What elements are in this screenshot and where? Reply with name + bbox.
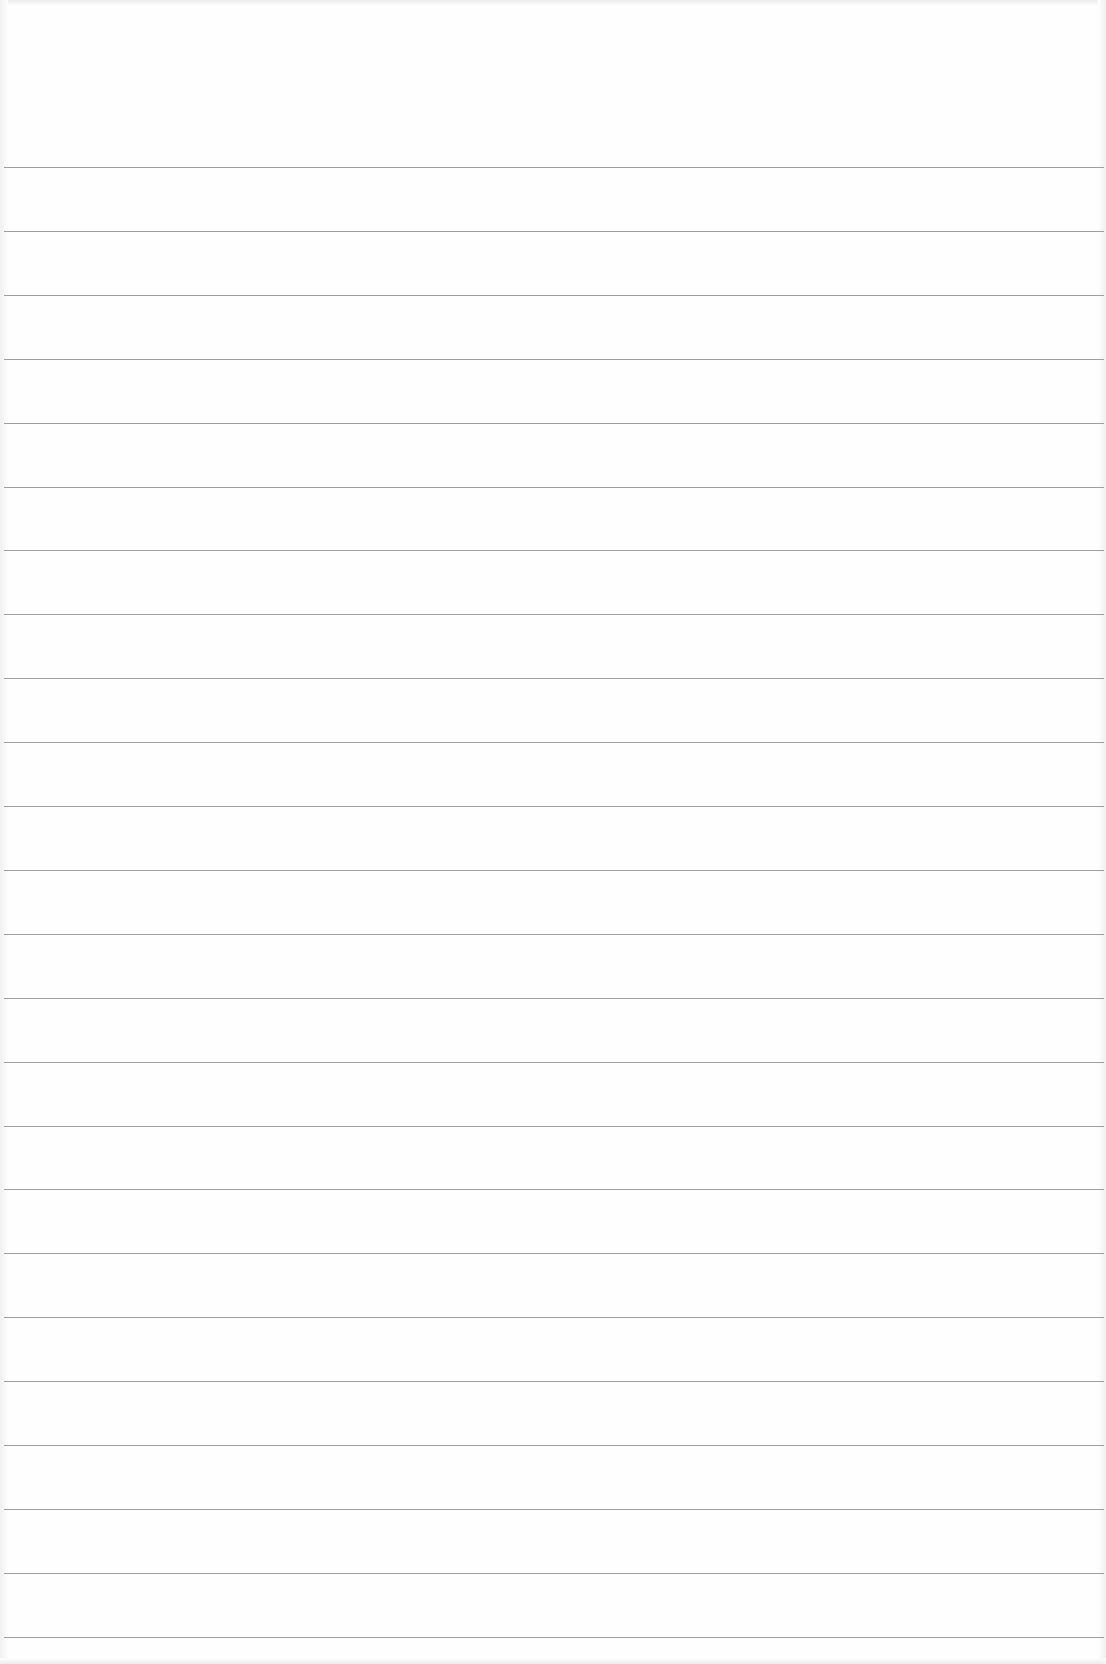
paper-left-edge <box>0 0 8 1664</box>
ruled-line <box>4 423 1104 424</box>
ruled-line <box>4 550 1104 551</box>
ruled-line <box>4 1637 1104 1638</box>
ruled-line <box>4 998 1104 999</box>
ruled-line <box>4 231 1104 232</box>
ruled-line <box>4 742 1104 743</box>
ruled-line <box>4 359 1104 360</box>
ruled-line <box>4 1062 1104 1063</box>
ruled-line <box>4 1573 1104 1574</box>
ruled-line <box>4 1509 1104 1510</box>
ruled-line <box>4 1317 1104 1318</box>
lined-paper-sheet <box>0 0 1106 1664</box>
ruled-line <box>4 934 1104 935</box>
ruled-line <box>4 295 1104 296</box>
paper-top-edge <box>0 0 1106 6</box>
ruled-line <box>4 806 1104 807</box>
ruled-line <box>4 614 1104 615</box>
ruled-line <box>4 1189 1104 1190</box>
ruled-line <box>4 1445 1104 1446</box>
ruled-line <box>4 1126 1104 1127</box>
paper-bottom-edge <box>0 1658 1106 1664</box>
ruled-line <box>4 167 1104 168</box>
paper-right-edge <box>1098 0 1106 1664</box>
ruled-line <box>4 678 1104 679</box>
ruled-line <box>4 487 1104 488</box>
ruled-line <box>4 1381 1104 1382</box>
ruled-line <box>4 1253 1104 1254</box>
ruled-line <box>4 870 1104 871</box>
